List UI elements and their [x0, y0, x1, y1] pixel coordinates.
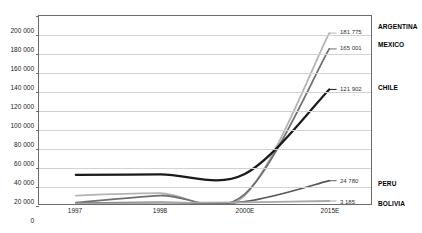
series-line-chile — [76, 89, 329, 180]
line-chart: 020 00040 00060 00080 000100 000120 0001… — [0, 0, 422, 233]
gridline — [39, 168, 371, 169]
y-axis-tick — [36, 54, 39, 55]
x-axis-tick-label: 2015E — [321, 207, 340, 215]
series-lines — [39, 16, 371, 204]
gridline — [39, 111, 371, 112]
gridline — [39, 35, 371, 36]
value-label-peru: 24 780 — [340, 178, 358, 185]
value-label-bolivia: 3 185 — [340, 198, 355, 205]
y-axis-tick — [36, 130, 39, 131]
x-axis-labels: 199719982000E2015E — [38, 207, 372, 221]
value-label-chile: 121 902 — [340, 86, 362, 93]
y-axis-tick — [36, 16, 39, 17]
y-axis-tick — [36, 73, 39, 74]
y-axis-tick-label: 0 — [0, 217, 34, 224]
legend-country-labels: ARGENTINAMEXICOCHILEPERUBOLIVIA — [378, 0, 422, 233]
y-axis-tick — [36, 111, 39, 112]
y-axis-tick-label: 180 000 — [0, 46, 34, 53]
gridline — [39, 54, 371, 55]
series-line-peru — [76, 181, 329, 204]
y-axis-tick — [36, 168, 39, 169]
y-axis-tick — [36, 187, 39, 188]
y-axis-tick-label: 200 000 — [0, 27, 34, 34]
y-axis-tick-label: 160 000 — [0, 65, 34, 72]
y-axis-tick-label: 80 000 — [0, 141, 34, 148]
x-axis-tick-label: 1998 — [153, 207, 167, 215]
y-axis-tick-label: 120 000 — [0, 103, 34, 110]
x-axis-tick-label: 1997 — [68, 207, 82, 215]
y-axis-tick-label: 60 000 — [0, 160, 34, 167]
y-axis-tick — [36, 92, 39, 93]
gridline — [39, 92, 371, 93]
plot-area — [38, 15, 372, 205]
y-axis-labels: 020 00040 00060 00080 000100 000120 0001… — [0, 15, 36, 205]
country-label-peru: PERU — [378, 180, 396, 188]
country-label-mexico: MEXICO — [378, 41, 404, 49]
gridline — [39, 187, 371, 188]
gridline — [39, 149, 371, 150]
country-label-argentina: ARGENTINA — [378, 23, 418, 31]
value-label-argentina: 181 775 — [340, 29, 362, 36]
y-axis-tick — [36, 149, 39, 150]
y-axis-tick-label: 100 000 — [0, 122, 34, 129]
value-label-mexico: 165 001 — [340, 45, 362, 52]
y-axis-tick-label: 140 000 — [0, 84, 34, 91]
y-axis-tick — [36, 35, 39, 36]
y-axis-tick-label: 40 000 — [0, 179, 34, 186]
country-label-bolivia: BOLIVIA — [378, 200, 405, 208]
y-axis-tick-label: 20 000 — [0, 198, 34, 205]
gridline — [39, 73, 371, 74]
x-axis-tick-label: 2000E — [236, 207, 255, 215]
gridline — [39, 130, 371, 131]
country-label-chile: CHILE — [378, 84, 398, 92]
